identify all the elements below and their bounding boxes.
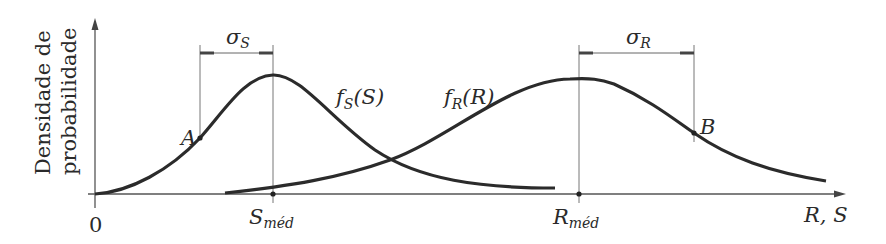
- point-b-label: B: [699, 115, 715, 139]
- fr-curve-label: fR(R): [442, 85, 495, 112]
- fs-curve-label: fS(S): [334, 85, 384, 112]
- r-median-marker: [576, 191, 581, 196]
- x-axis-arrow-icon: [834, 191, 846, 198]
- point-a-label: A: [179, 126, 196, 150]
- y-axis-label: Densidade de probabilidade: [31, 27, 81, 175]
- s-median-marker: [270, 191, 275, 196]
- x-axis-label: R, S: [803, 203, 848, 227]
- s-median-label: Sméd: [249, 205, 294, 231]
- fr-curve: [225, 79, 826, 193]
- sigma-r-label: σR: [626, 25, 651, 51]
- origin-label: 0: [89, 213, 102, 237]
- y-axis-label-line2: probabilidade: [57, 27, 81, 175]
- reliability-distribution-diagram: Densidade de probabilidade σS σR A B fS(…: [0, 0, 886, 244]
- y-axis-arrow-icon: [92, 18, 99, 30]
- r-median-label: Rméd: [552, 205, 599, 231]
- y-axis-label-line1: Densidade de: [31, 30, 55, 175]
- point-a-marker: [197, 135, 202, 140]
- point-b-marker: [691, 130, 696, 135]
- sigma-s-label: σS: [226, 25, 250, 51]
